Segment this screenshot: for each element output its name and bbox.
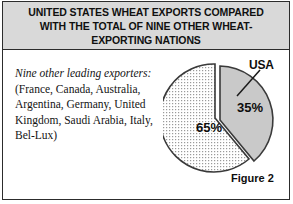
figure-body: Nine other leading exporters: (France, C…	[3, 50, 289, 198]
figure-container: UNITED STATES WHEAT EXPORTS COMPARED WIT…	[0, 0, 293, 204]
figure-title-line-1: UNITED STATES WHEAT EXPORTS COMPARED	[28, 5, 263, 19]
exporters-note: Nine other leading exporters: (France, C…	[15, 66, 167, 144]
pie-value-label-other: 65%	[196, 120, 222, 135]
exporters-note-line-4: Bel-Lux)	[15, 128, 167, 144]
exporters-note-line-1: (France, Canada, Australia,	[15, 82, 167, 98]
figure-title-line-3: EXPORTING NATIONS	[91, 33, 201, 47]
usa-callout-label: USA	[249, 58, 274, 72]
figure-caption: Figure 2	[231, 172, 274, 184]
exporters-note-line-2: Argentina, Germany, United	[15, 97, 167, 113]
exporters-note-lead: Nine other leading exporters:	[15, 66, 167, 82]
figure-title-band: UNITED STATES WHEAT EXPORTS COMPARED WIT…	[3, 2, 289, 50]
pie-value-label-usa: 35%	[237, 100, 263, 115]
exporters-note-line-3: Kingdom, Saudi Arabia, Italy,	[15, 113, 167, 129]
figure-title-line-2: WITH THE TOTAL OF NINE OTHER WHEAT-	[40, 19, 253, 33]
pie-chart: USA 35% 65% Figure 2	[163, 52, 289, 198]
